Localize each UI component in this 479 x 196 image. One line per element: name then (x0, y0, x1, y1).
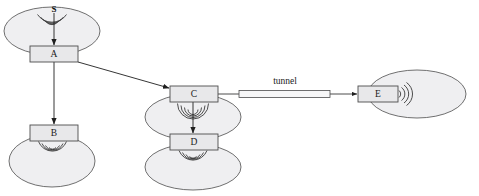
node-label-c: C (191, 89, 197, 99)
cell-ellipse-b (9, 135, 95, 187)
diagram-canvas: S A B C D E tunnel (0, 0, 479, 196)
node-label-a: A (51, 49, 58, 59)
link-a-to-c (78, 62, 169, 88)
node-label-b: B (51, 128, 57, 138)
source-label-s: S (51, 4, 56, 14)
topology-svg: S A B C D E tunnel (0, 0, 479, 196)
node-label-d: D (191, 137, 198, 147)
tunnel-pipe (239, 91, 330, 98)
node-boxes (30, 46, 398, 150)
tunnel-label: tunnel (273, 76, 297, 86)
node-label-e: E (375, 89, 381, 99)
cell-ellipse-d (145, 144, 241, 190)
